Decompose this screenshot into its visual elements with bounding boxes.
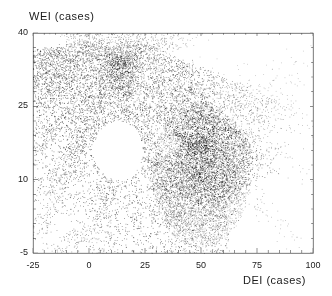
x-tick-label: 0 — [74, 260, 104, 270]
x-tick-label: 25 — [130, 260, 160, 270]
x-tick-label: 100 — [298, 260, 328, 270]
x-axis-title: DEI (cases) — [243, 274, 306, 286]
y-tick-label: -5 — [6, 247, 28, 257]
scatter-plot-figure: WEI (cases) DEI (cases) -5102540 -250255… — [0, 0, 332, 296]
x-tick-label: 50 — [186, 260, 216, 270]
y-tick-label: 40 — [6, 27, 28, 37]
scatter-plot-canvas — [0, 0, 332, 296]
x-tick-label: -25 — [18, 260, 48, 270]
y-tick-label: 25 — [6, 100, 28, 110]
y-axis-title: WEI (cases) — [29, 10, 94, 22]
x-tick-label: 75 — [242, 260, 272, 270]
y-tick-label: 10 — [6, 174, 28, 184]
